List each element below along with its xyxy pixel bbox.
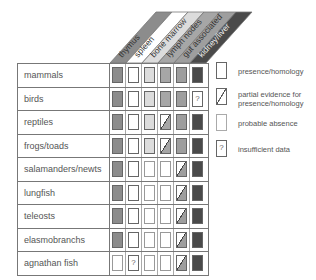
presence-swatch-icon (112, 67, 123, 83)
partial-swatch-icon (176, 232, 187, 248)
table-cell (174, 229, 190, 252)
partial-swatch-icon (176, 185, 187, 201)
partial-swatch-icon (216, 88, 227, 105)
presence-swatch-icon (192, 232, 203, 248)
table-cell (126, 229, 142, 252)
partial-swatch-icon (176, 161, 187, 177)
table-cell (158, 229, 174, 252)
table-cell (158, 182, 174, 205)
absence-swatch-icon (160, 161, 171, 177)
row-label: teleosts (18, 205, 110, 228)
table-cell (190, 135, 206, 158)
absence-swatch-icon (112, 255, 123, 271)
presence-swatch-icon (128, 232, 139, 248)
presence-swatch-icon (192, 208, 203, 224)
row-label: salamanders/newts (18, 158, 110, 181)
presence-swatch-icon (128, 185, 139, 201)
table-cell (190, 64, 206, 87)
table-cell: ? (126, 252, 142, 275)
absence-swatch-icon (216, 114, 227, 131)
question-mark-icon: ? (128, 255, 139, 271)
table-cell (142, 111, 158, 134)
presence-swatch-icon (192, 67, 203, 83)
legend-partial: partial evidence for presence/homology (216, 88, 316, 114)
table-row: elasmobranchs (18, 229, 208, 253)
presence-swatch-icon (112, 91, 123, 107)
presence-swatch-icon (144, 67, 155, 83)
table-cell (158, 135, 174, 158)
presence-swatch-icon (192, 114, 203, 130)
table-cell (142, 135, 158, 158)
table-cell (110, 135, 126, 158)
partial-swatch-icon (176, 255, 187, 271)
table-row: salamanders/newts (18, 158, 208, 182)
table-cell (110, 252, 126, 275)
table-row: teleosts (18, 205, 208, 229)
presence-swatch-icon (128, 67, 139, 83)
table-cell (142, 64, 158, 87)
table-row: birds? (18, 88, 208, 112)
presence-swatch-icon (128, 161, 139, 177)
table-cell (110, 111, 126, 134)
table-cell (126, 111, 142, 134)
table-cell (174, 205, 190, 228)
presence-swatch-icon (112, 114, 123, 130)
legend-absence: probable absence (216, 114, 316, 140)
table-cell (126, 64, 142, 87)
presence-swatch-icon (112, 232, 123, 248)
table-cell (190, 111, 206, 134)
row-label: birds (18, 88, 110, 111)
absence-swatch-icon (144, 208, 155, 224)
data-table: mammalsbirds?reptilesfrogs/toadssalamand… (17, 63, 209, 276)
table-cell (158, 88, 174, 111)
presence-swatch-icon (192, 185, 203, 201)
table-cell (190, 205, 206, 228)
presence-swatch-icon (144, 114, 155, 130)
table-cell (158, 252, 174, 275)
table-cell (190, 158, 206, 181)
table-cell (158, 111, 174, 134)
table-cell (142, 88, 158, 111)
presence-swatch-icon (176, 91, 187, 107)
table-cell (110, 229, 126, 252)
table-cell (158, 64, 174, 87)
table-cell (174, 135, 190, 158)
row-label: lungfish (18, 182, 110, 205)
table-cell (142, 252, 158, 275)
absence-swatch-icon (160, 255, 171, 271)
presence-swatch-icon (160, 67, 171, 83)
table-cell (174, 182, 190, 205)
table-cell (126, 135, 142, 158)
table-cell (174, 88, 190, 111)
presence-swatch-icon (176, 138, 187, 154)
table-cell (142, 182, 158, 205)
row-label: mammals (18, 64, 110, 87)
presence-swatch-icon (192, 255, 203, 271)
absence-swatch-icon (144, 255, 155, 271)
table-cell (142, 205, 158, 228)
table-cell (126, 88, 142, 111)
table-cell: ? (190, 88, 206, 111)
presence-swatch-icon (160, 91, 171, 107)
table-cell (126, 205, 142, 228)
row-label: reptiles (18, 111, 110, 134)
presence-swatch-icon (128, 138, 139, 154)
presence-swatch-icon (128, 114, 139, 130)
presence-swatch-icon (176, 67, 187, 83)
presence-swatch-icon (176, 114, 187, 130)
table-row: lungfish (18, 182, 208, 206)
table-row: frogs/toads (18, 135, 208, 159)
table-cell (174, 158, 190, 181)
table-cell (110, 182, 126, 205)
table-cell (174, 252, 190, 275)
presence-swatch-icon (144, 91, 155, 107)
presence-swatch-icon (128, 208, 139, 224)
table-row: agnathan fish? (18, 252, 208, 276)
absence-swatch-icon (160, 232, 171, 248)
table-cell (110, 88, 126, 111)
table-cell (110, 64, 126, 87)
partial-swatch-icon (160, 138, 171, 154)
partial-swatch-icon (160, 114, 171, 130)
legend-insufficient: ? insufficient data (216, 140, 316, 166)
table-row: mammals (18, 64, 208, 88)
